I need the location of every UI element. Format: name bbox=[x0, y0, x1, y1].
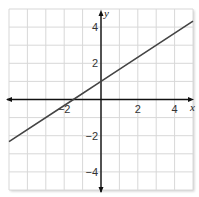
y-tick-label: −4 bbox=[85, 166, 98, 178]
x-tick-label: 2 bbox=[135, 103, 141, 115]
x-tick-label: 4 bbox=[172, 103, 178, 115]
y-tick-label: 4 bbox=[92, 21, 98, 33]
y-tick-label: 2 bbox=[92, 57, 98, 69]
x-axis-label: x bbox=[189, 101, 195, 113]
coordinate-plane: xy−22442−2−4 bbox=[0, 0, 199, 197]
y-axis-label: y bbox=[103, 7, 109, 19]
y-tick-label: −2 bbox=[85, 130, 98, 142]
